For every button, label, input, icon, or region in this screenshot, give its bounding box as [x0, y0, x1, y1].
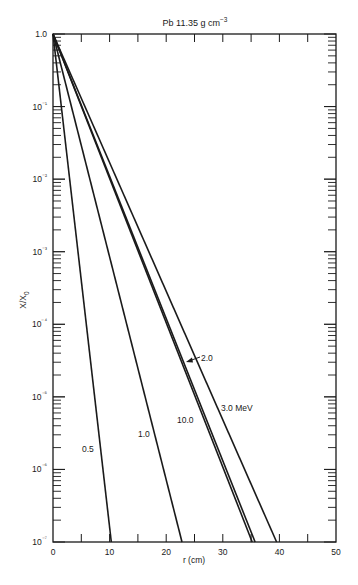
series-line: [53, 34, 182, 542]
y-tick-label: 10⁻⁴: [32, 318, 47, 329]
x-tick-label: 40: [275, 547, 285, 557]
series-line: [53, 34, 255, 542]
x-axis-label: r (cm): [183, 555, 205, 565]
x-tick-label: 50: [331, 547, 341, 557]
x-tick-label: 10: [105, 547, 115, 557]
curve-label-2.0: 2.0: [201, 353, 213, 363]
x-tick-label: 20: [161, 547, 171, 557]
x-tick-label: 0: [51, 547, 56, 557]
curve-label-10.0: 10.0: [177, 415, 194, 425]
y-tick-labels: 1.010⁻¹10⁻²10⁻³10⁻⁴10⁻⁵10⁻⁶10⁻⁷: [32, 29, 48, 547]
chart-title: Pb 11.35 g cm−3: [163, 16, 228, 28]
series-line: [53, 34, 277, 542]
curve-label-3.0-mev: 3.0 MeV: [221, 403, 253, 413]
y-tick-label: 10⁻⁷: [32, 536, 47, 547]
y-tick-label: 1.0: [35, 29, 47, 39]
axis-ticks: [53, 34, 336, 542]
curve-label-1.0: 1.0: [138, 429, 150, 439]
y-tick-label: 10⁻⁶: [32, 463, 47, 474]
plot-frame: [53, 34, 336, 542]
attenuation-chart: Pb 11.35 g cm−3 1.010⁻¹10⁻²10⁻³10⁻⁴10⁻⁵1…: [0, 0, 358, 585]
curve-label-0.5: 0.5: [82, 444, 94, 454]
y-tick-label: 10⁻¹: [33, 101, 47, 112]
y-axis-label: X/X0: [18, 291, 30, 309]
y-tick-label: 10⁻²: [33, 173, 47, 184]
y-tick-label: 10⁻³: [33, 246, 47, 257]
data-series: [53, 34, 277, 542]
y-tick-label: 10⁻⁵: [32, 391, 47, 402]
x-tick-label: 30: [218, 547, 228, 557]
